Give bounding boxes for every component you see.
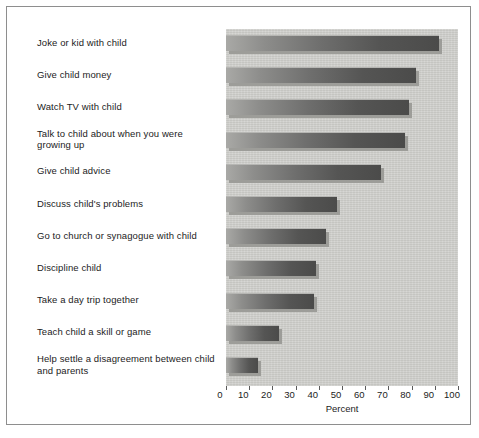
bar [226, 228, 326, 244]
category-label: Discuss child's problems [37, 198, 219, 210]
category-label: Give child advice [37, 165, 219, 177]
x-tick-label: 50 [323, 389, 349, 400]
x-tick-label: 40 [300, 389, 326, 400]
bar [226, 132, 405, 148]
bar [226, 196, 337, 212]
category-label: Joke or kid with child [37, 37, 219, 49]
category-label: Take a day trip together [37, 294, 219, 306]
category-label: Talk to child about when you were growin… [37, 128, 219, 151]
bar [226, 357, 258, 373]
category-label: Watch TV with child [37, 101, 219, 113]
category-label: Give child money [37, 69, 219, 81]
bar [226, 35, 439, 51]
bar [226, 99, 409, 115]
x-tick-label: 30 [277, 389, 303, 400]
bar [226, 325, 279, 341]
category-label: Teach child a skill or game [37, 326, 219, 338]
bar [226, 67, 416, 83]
plot-area [226, 29, 458, 386]
category-label: Help settle a disagreement between child… [37, 353, 219, 376]
category-label: Discipline child [37, 262, 219, 274]
x-tick-label: 90 [416, 389, 442, 400]
chart-page: Joke or kid with childGive child moneyWa… [0, 0, 479, 438]
x-tick-label: 60 [346, 389, 372, 400]
x-tick-label: 70 [369, 389, 395, 400]
category-label: Go to church or synagogue with child [37, 230, 219, 242]
x-tick-label: 100 [439, 389, 465, 400]
x-tick-label: 10 [230, 389, 256, 400]
bar [226, 164, 381, 180]
x-tick-label: 20 [253, 389, 279, 400]
x-tick-label: 80 [393, 389, 419, 400]
category-labels-column: Joke or kid with childGive child moneyWa… [7, 29, 219, 386]
bar [226, 293, 314, 309]
bar [226, 260, 316, 276]
x-tick-label: 0 [207, 389, 233, 400]
x-axis-title: Percent [226, 403, 458, 414]
chart-frame: Joke or kid with childGive child moneyWa… [6, 6, 471, 425]
